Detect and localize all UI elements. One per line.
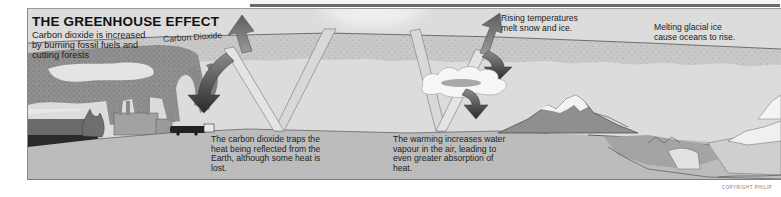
- caption-rising-temperatures: Rising temperatures melt snow and ice.: [501, 14, 578, 33]
- caption-line: lost.: [211, 164, 320, 174]
- intro-line: by burning fossil fuels and: [32, 40, 172, 50]
- mountain: [498, 95, 638, 133]
- intro-line: Carbon dioxide is increased: [32, 30, 172, 40]
- greenhouse-diagram-panel: THE GREENHOUSE EFFECT Carbon dioxide is …: [27, 8, 781, 180]
- diagram-title: THE GREENHOUSE EFFECT: [32, 15, 219, 29]
- intro-caption: Carbon dioxide is increased by burning f…: [32, 30, 172, 60]
- caption-melting-ice: Melting glacial ice cause oceans to rise…: [654, 23, 735, 42]
- top-edge-rule: [250, 4, 780, 7]
- caption-co2-traps-heat: The carbon dioxide traps the heat being …: [211, 135, 320, 173]
- caption-line: heat.: [393, 164, 505, 174]
- caption-line: Earth, although some heat is: [211, 154, 320, 164]
- caption-line: melt snow and ice.: [501, 24, 578, 34]
- caption-line: cause oceans to rise.: [654, 33, 735, 43]
- copyright-notice: COPYRIGHT PHILIP: [722, 185, 772, 190]
- caption-water-vapour: The warming increases water vapour in th…: [393, 135, 505, 173]
- intro-line: cutting forests: [32, 50, 172, 60]
